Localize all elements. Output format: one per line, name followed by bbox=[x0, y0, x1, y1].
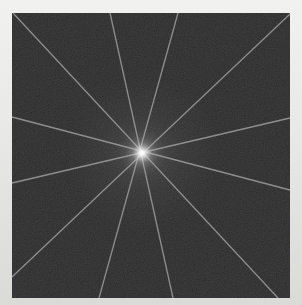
spectrum-svg bbox=[12, 13, 290, 298]
center-core-dot bbox=[140, 151, 145, 156]
starburst-spectrum-image bbox=[12, 13, 290, 298]
